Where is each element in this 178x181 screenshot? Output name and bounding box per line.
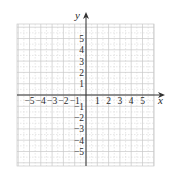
- x-tick-label: −4: [36, 96, 46, 106]
- x-tick-label: −2: [58, 96, 68, 106]
- y-axis-label: y: [74, 9, 80, 21]
- y-tick-label: 1: [79, 79, 84, 89]
- coordinate-grid-svg: −5−4−3−2−11234554321−1−2−3−4−5 x y: [0, 0, 178, 181]
- y-tick-label: −5: [74, 147, 84, 157]
- y-tick-label: 3: [79, 57, 84, 67]
- y-tick-label: 4: [79, 45, 84, 55]
- coordinate-plane: −5−4−3−2−11234554321−1−2−3−4−5 x y: [0, 0, 178, 181]
- x-tick-label: −3: [47, 96, 57, 106]
- x-tick-label: 3: [118, 96, 123, 106]
- x-tick-label: 2: [106, 96, 111, 106]
- x-tick-label: 1: [95, 96, 100, 106]
- y-tick-label: 2: [79, 68, 84, 78]
- y-tick-label: −1: [74, 102, 84, 112]
- x-tick-label: 5: [140, 96, 145, 106]
- x-tick-label: 4: [129, 96, 134, 106]
- y-tick-label: −2: [74, 113, 84, 123]
- x-tick-label: −5: [24, 96, 34, 106]
- x-axis-label: x: [157, 94, 163, 106]
- y-tick-label: −3: [74, 124, 84, 134]
- y-tick-label: −4: [74, 136, 84, 146]
- y-tick-label: 5: [79, 34, 84, 44]
